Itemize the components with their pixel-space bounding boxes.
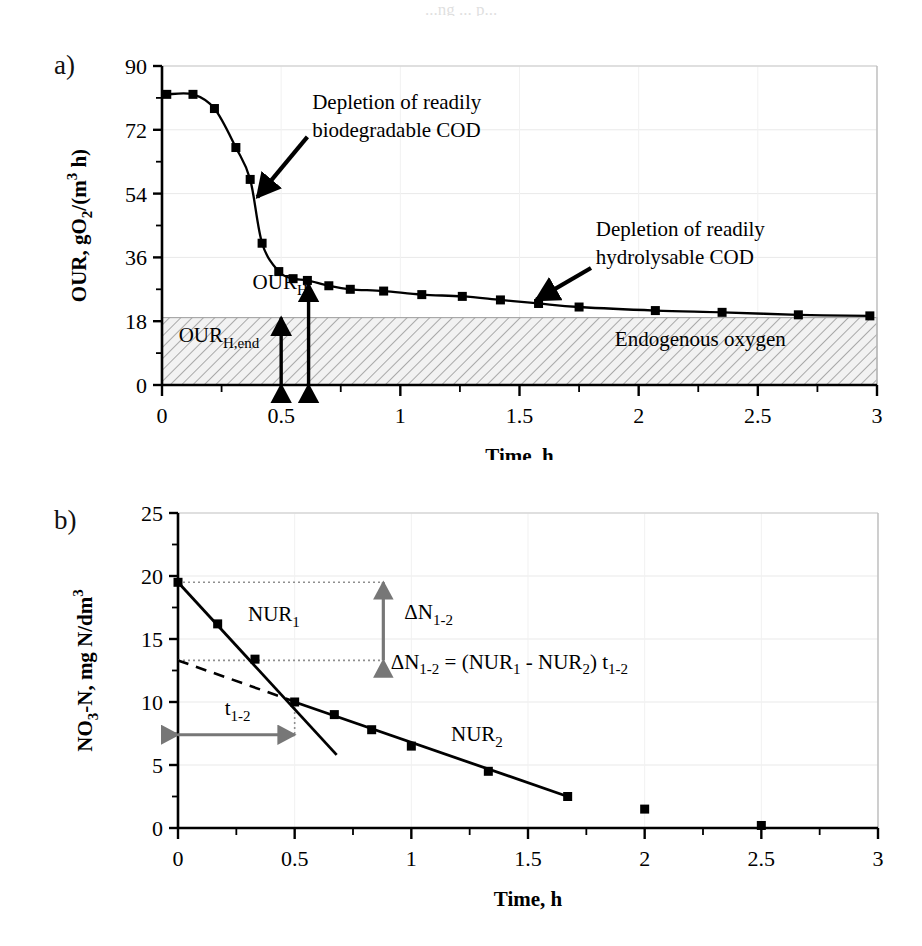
y-tick-label: 90 [125, 54, 147, 79]
depletion-readily-biodegradable-cod: Depletion of readily [312, 90, 482, 114]
data-point [575, 303, 584, 312]
y-tick-label: 15 [141, 627, 163, 652]
data-point [718, 308, 727, 317]
data-point [563, 792, 572, 801]
data-point [246, 175, 255, 184]
data-point [213, 619, 222, 628]
data-point [757, 821, 766, 830]
y-tick-label: 36 [125, 245, 147, 270]
data-point [324, 281, 333, 290]
x-axis-title: Time, h [485, 444, 554, 460]
our-h-label: OURH [253, 270, 308, 298]
depletion-readily-biodegradable-cod: biodegradable COD [312, 118, 481, 142]
x-tick-label: 2.5 [748, 846, 776, 871]
y-tick-label: 54 [125, 182, 147, 207]
x-axis-title: Time, h [494, 887, 563, 911]
data-point [258, 239, 267, 248]
data-point [290, 698, 299, 707]
equation-label: ΔN1-2​ = (NUR1​ - NUR2​) t1-2​ [391, 650, 628, 677]
t-1-2-label: t1-2 [225, 696, 251, 724]
data-point [251, 655, 260, 664]
data-point [651, 306, 660, 315]
chart-panel-a: 0183654729000.511.522.53Depletion of rea… [0, 0, 922, 460]
y-axis-title: NO3-N, mg N/dm3 [70, 589, 101, 752]
x-tick-label: 3 [873, 846, 884, 871]
data-point [865, 311, 874, 320]
y-axis-title: OUR, gO2/(m3 h) [64, 149, 95, 302]
x-tick-label: 0.5 [267, 403, 295, 428]
nur2-extrapolated [178, 660, 299, 703]
x-tick-label: 0.5 [281, 846, 309, 871]
x-tick-label: 1 [406, 846, 417, 871]
data-point [417, 290, 426, 299]
nur1-label: NUR1 [248, 602, 300, 630]
data-point [794, 310, 803, 319]
data-point [210, 104, 219, 113]
delta-n-label: ΔN1-2 [404, 600, 453, 628]
data-point [379, 287, 388, 296]
y-tick-label: 5 [152, 753, 163, 778]
y-tick-label: 0 [152, 816, 163, 841]
x-tick-label: 1.5 [514, 846, 542, 871]
data-point [346, 285, 355, 294]
data-point [162, 90, 171, 99]
data-point [174, 578, 183, 587]
depletion-readily-biodegradable-cod-arrow [257, 137, 307, 197]
x-tick-label: 2 [633, 403, 644, 428]
data-point [231, 143, 240, 152]
y-tick-label: 10 [141, 690, 163, 715]
x-tick-label: 2.5 [744, 403, 772, 428]
nur2-label: NUR2 [451, 722, 503, 750]
data-point [458, 292, 467, 301]
x-tick-label: 1.5 [506, 403, 534, 428]
y-tick-label: 72 [125, 118, 147, 143]
data-point [484, 767, 493, 776]
x-tick-label: 0 [173, 846, 184, 871]
y-tick-label: 18 [125, 309, 147, 334]
depletion-readily-hydrolysable-cod: Depletion of readily [596, 217, 766, 241]
x-tick-label: 1 [395, 403, 406, 428]
data-point [496, 295, 505, 304]
endogenous-oxygen-label: Endogenous oxygen [615, 327, 786, 351]
y-tick-label: 0 [136, 373, 147, 398]
x-tick-label: 0 [157, 403, 168, 428]
y-tick-label: 20 [141, 564, 163, 589]
x-tick-label: 2 [639, 846, 650, 871]
depletion-readily-hydrolysable-cod: hydrolysable COD [596, 245, 754, 269]
data-point [640, 805, 649, 814]
data-point [407, 742, 416, 751]
figure-container: a) b) 0183654729000.511.522.53Depletion … [0, 0, 922, 946]
depletion-readily-hydrolysable-cod-arrow [536, 268, 591, 300]
y-tick-label: 25 [141, 501, 163, 526]
data-point [367, 725, 376, 734]
data-point [330, 710, 339, 719]
chart-panel-b: 051015202500.511.522.53NUR1NUR2ΔN1-2t1-2… [0, 460, 922, 946]
data-point [188, 90, 197, 99]
x-tick-label: 3 [872, 403, 883, 428]
